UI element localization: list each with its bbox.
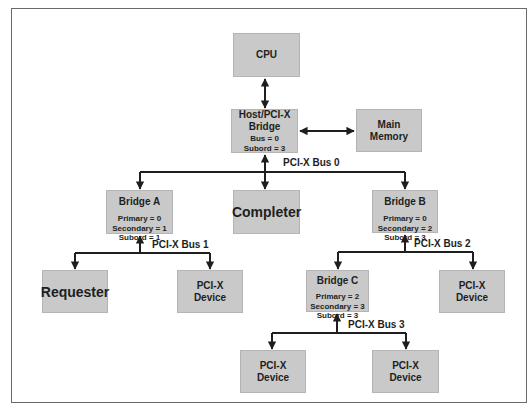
pcix-device-bus3-right-node: PCI-X Device [372,350,439,393]
bridge-b-node: Bridge B Primary = 0 Secondary = 2 Subor… [372,190,438,233]
requester-node: Requester [42,270,108,313]
completer-node: Completer [233,190,300,234]
bridge-a-label: Bridge A [119,196,160,208]
device-bus3-left-label-1: PCI-X [260,360,287,372]
requester-label: Requester [41,284,109,300]
device-bus3-left-label-2: Device [257,372,289,384]
pcix-device-bus2-node: PCI-X Device [439,270,505,313]
bridge-b-label: Bridge B [384,196,426,208]
bus3-label: PCI-X Bus 3 [348,319,405,330]
bridge-c-label: Bridge C [317,275,359,287]
bus1-label: PCI-X Bus 1 [152,239,209,250]
bridge-a-secondary: Secondary = 1 [112,224,166,234]
bridge-a-node: Bridge A Primary = 0 Secondary = 1 Subor… [106,190,173,234]
bus2-label: PCI-X Bus 2 [414,238,471,249]
cpu-node: CPU [233,33,300,77]
completer-label: Completer [232,204,301,220]
bridge-b-secondary: Secondary = 2 [378,224,432,234]
device-bus1-label-2: Device [194,292,226,304]
bus0-label: PCI-X Bus 0 [283,157,340,168]
device-bus3-right-label-1: PCI-X [392,360,419,372]
bridge-c-secondary: Secondary = 3 [310,302,364,312]
bridge-b-primary: Primary = 0 [383,214,426,224]
device-bus1-label-1: PCI-X [197,280,224,292]
bridge-c-primary: Primary = 2 [316,292,359,302]
device-bus3-right-label-2: Device [389,372,421,384]
pcix-device-bus1-node: PCI-X Device [177,270,243,313]
host-bridge-subord: Subord = 3 [244,144,286,154]
host-bridge-node: Host/PCI-X Bridge Bus = 0 Subord = 3 [231,109,298,153]
host-bridge-label-2: Bridge [249,121,281,133]
main-memory-label-1: Main [378,119,401,131]
device-bus2-label-2: Device [456,292,488,304]
bridge-c-node: Bridge C Primary = 2 Secondary = 3 Subor… [306,270,369,312]
device-bus2-label-1: PCI-X [459,280,486,292]
pcix-device-bus3-left-node: PCI-X Device [240,350,306,393]
host-bridge-bus: Bus = 0 [250,134,279,144]
cpu-label: CPU [256,49,277,61]
main-memory-node: Main Memory [356,109,422,152]
main-memory-label-2: Memory [370,131,408,143]
host-bridge-label-1: Host/PCI-X [239,109,291,121]
bridge-a-primary: Primary = 0 [118,214,161,224]
